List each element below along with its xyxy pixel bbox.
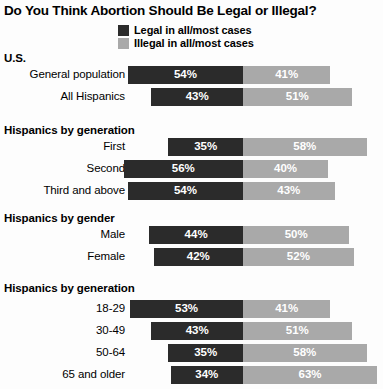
bar-row: 65 and older34%63% xyxy=(0,366,383,384)
bar-row: Female42%52% xyxy=(0,248,383,266)
stacked-bar: 54%43% xyxy=(128,182,335,200)
bar-segment-legal: 35% xyxy=(168,344,243,362)
stacked-bar: 35%58% xyxy=(168,138,366,156)
chart-legend: Legal in all/most cases Illegal in all/m… xyxy=(118,24,254,50)
stacked-bar: 43%51% xyxy=(151,88,351,106)
bar-value-legal: 42% xyxy=(187,251,210,263)
bar-row-label: 50-64 xyxy=(96,346,125,358)
section-heading: Hispanics by generation xyxy=(4,282,135,294)
bar-segment-legal: 35% xyxy=(168,138,243,156)
bar-value-illegal: 52% xyxy=(287,251,310,263)
bar-value-illegal: 58% xyxy=(293,141,316,153)
stacked-bar: 35%58% xyxy=(168,344,366,362)
section-heading: U.S. xyxy=(4,52,26,64)
bar-row: 30-4943%51% xyxy=(0,322,383,340)
bar-segment-illegal: 41% xyxy=(243,66,330,84)
bar-value-illegal: 41% xyxy=(275,303,298,315)
bar-value-legal: 54% xyxy=(174,185,197,197)
stacked-bar: 43%51% xyxy=(151,322,351,340)
section-heading: Hispanics by generation xyxy=(4,124,135,136)
bar-segment-legal: 42% xyxy=(154,248,243,266)
bar-segment-illegal: 41% xyxy=(243,300,330,318)
bar-value-legal: 54% xyxy=(174,69,197,81)
stacked-bar: 42%52% xyxy=(154,248,354,266)
bar-value-legal: 53% xyxy=(175,303,198,315)
bar-value-illegal: 51% xyxy=(286,91,309,103)
bar-row: General population54%41% xyxy=(0,66,383,84)
bar-segment-legal: 43% xyxy=(151,322,243,340)
legend-swatch-legal xyxy=(118,25,129,36)
bar-row-label: Female xyxy=(87,250,125,262)
chart-title: Do You Think Abortion Should Be Legal or… xyxy=(4,3,316,18)
bar-segment-illegal: 51% xyxy=(243,322,352,340)
bar-segment-illegal: 43% xyxy=(243,182,335,200)
bar-row: All Hispanics43%51% xyxy=(0,88,383,106)
bar-row-label: 30-49 xyxy=(96,324,125,336)
bar-row-label: 18-29 xyxy=(96,302,125,314)
legend-label-legal: Legal in all/most cases xyxy=(134,24,252,36)
bar-value-illegal: 40% xyxy=(274,163,297,175)
bar-row: 50-6435%58% xyxy=(0,344,383,362)
bar-value-illegal: 43% xyxy=(277,185,300,197)
bar-value-illegal: 63% xyxy=(299,369,322,381)
bar-segment-legal: 43% xyxy=(151,88,243,106)
bar-value-legal: 35% xyxy=(194,141,217,153)
chart-container: Do You Think Abortion Should Be Legal or… xyxy=(0,0,383,389)
bar-row: Male44%50% xyxy=(0,226,383,244)
bar-value-legal: 43% xyxy=(186,325,209,337)
bar-segment-illegal: 63% xyxy=(243,366,377,384)
bar-row-label: 65 and older xyxy=(62,368,125,380)
bar-value-legal: 34% xyxy=(195,369,218,381)
bar-value-illegal: 58% xyxy=(293,347,316,359)
bar-segment-legal: 56% xyxy=(124,160,243,178)
bar-value-legal: 56% xyxy=(172,163,195,175)
stacked-bar: 34%63% xyxy=(171,366,378,384)
stacked-bar: 53%41% xyxy=(130,300,330,318)
bar-segment-legal: 34% xyxy=(171,366,243,384)
section-heading: Hispanics by gender xyxy=(4,212,115,224)
bar-segment-legal: 44% xyxy=(149,226,243,244)
bar-row-label: All Hispanics xyxy=(60,90,125,102)
bar-row-label: First xyxy=(103,140,125,152)
bar-row-label: General population xyxy=(30,68,125,80)
bar-row: 18-2953%41% xyxy=(0,300,383,318)
bar-segment-illegal: 40% xyxy=(243,160,328,178)
bar-segment-legal: 54% xyxy=(128,66,243,84)
bar-segment-illegal: 51% xyxy=(243,88,352,106)
legend-label-illegal: Illegal in all/most cases xyxy=(134,37,254,49)
bar-segment-illegal: 58% xyxy=(243,344,367,362)
stacked-bar: 54%41% xyxy=(128,66,330,84)
bar-row-label: Third and above xyxy=(43,184,125,196)
bar-row: Second56%40% xyxy=(0,160,383,178)
bar-segment-legal: 53% xyxy=(130,300,243,318)
bar-value-legal: 35% xyxy=(194,347,217,359)
bar-row: First35%58% xyxy=(0,138,383,156)
bar-segment-illegal: 58% xyxy=(243,138,367,156)
bar-value-illegal: 50% xyxy=(285,229,308,241)
legend-item-illegal: Illegal in all/most cases xyxy=(118,37,254,49)
bar-segment-illegal: 50% xyxy=(243,226,350,244)
bar-row-label: Second xyxy=(87,162,125,174)
bar-value-illegal: 51% xyxy=(286,325,309,337)
bar-value-illegal: 41% xyxy=(275,69,298,81)
stacked-bar: 56%40% xyxy=(124,160,328,178)
legend-swatch-illegal xyxy=(118,38,129,49)
bar-segment-legal: 54% xyxy=(128,182,243,200)
bar-value-legal: 44% xyxy=(185,229,208,241)
stacked-bar: 44%50% xyxy=(149,226,349,244)
bar-row-label: Male xyxy=(100,228,125,240)
bar-row: Third and above54%43% xyxy=(0,182,383,200)
bar-segment-illegal: 52% xyxy=(243,248,354,266)
legend-item-legal: Legal in all/most cases xyxy=(118,24,254,36)
bar-value-legal: 43% xyxy=(186,91,209,103)
